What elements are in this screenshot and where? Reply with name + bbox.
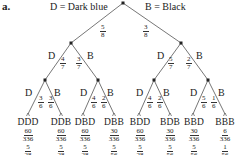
outcome-ddd: DDD 60336 528 [14,117,42,155]
branch-letter-d: D [157,50,164,61]
branch-letter-d: D [48,50,55,61]
node-db [97,79,100,82]
outcome-bbb: BBB 6336 156 [211,117,239,155]
part-label: a. [2,0,10,12]
root-node [122,2,125,5]
branch-letter-d: D [25,87,32,98]
prob-db: 3 7 [76,56,82,71]
prob-bbd: 5 6 [201,95,207,110]
branch-letter-b: B [107,87,114,98]
legend-dark-blue: D = Dark blue [50,1,108,12]
node-bd [153,79,156,82]
branch-letter-b: B [218,87,225,98]
outcome-bdd: BDD 60336 528 [126,117,154,155]
prob-bbb: 1 6 [211,95,217,110]
outcome-dbb: DBB 30336 556 [100,117,128,155]
branch-letter-d: D [136,87,143,98]
node-b [180,42,183,45]
legend-black: B = Black [145,1,186,12]
prob-bdd: 4 6 [147,95,153,110]
node-d [70,42,73,45]
branch-letter-d: D [190,87,197,98]
prob-ddb: 3 6 [48,95,54,110]
prob-dbb: 2 6 [101,95,107,110]
prob-b-level1: 3 8 [143,24,149,39]
branch-letter-b: B [87,50,94,61]
outcome-dbd: DBD 60336 528 [71,117,99,155]
prob-dbd: 4 6 [91,95,97,110]
branch-letter-b: B [163,87,170,98]
prob-bb: 2 7 [186,56,192,71]
prob-ddd: 3 6 [38,95,44,110]
node-dd [44,79,47,82]
prob-dd: 4 7 [60,56,66,71]
branch-letter-b: B [196,50,203,61]
outcome-bbd: BBD 30336 556 [180,117,208,155]
prob-bd: 5 7 [168,56,174,71]
branch-letter-b: B [54,87,61,98]
prob-d-level1: 5 8 [100,24,106,39]
node-bb [207,79,210,82]
branch-letter-d: D [80,87,87,98]
prob-bdb: 2 6 [157,95,163,110]
